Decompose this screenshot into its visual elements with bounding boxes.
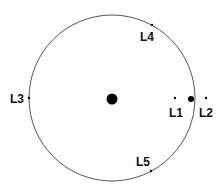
label-l5: L5 (136, 155, 150, 169)
label-l4: L4 (140, 30, 154, 44)
label-l1: L1 (169, 106, 183, 120)
lagrange-diagram: L1 L2 L3 L4 L5 (0, 0, 224, 187)
earth (188, 96, 194, 102)
label-l2: L2 (199, 106, 213, 120)
point-l2 (205, 97, 207, 99)
label-l3: L3 (10, 92, 24, 106)
sun (107, 94, 118, 105)
point-l4 (151, 24, 153, 26)
point-l1 (174, 97, 176, 99)
point-l3 (28, 97, 30, 99)
point-l5 (150, 170, 152, 172)
